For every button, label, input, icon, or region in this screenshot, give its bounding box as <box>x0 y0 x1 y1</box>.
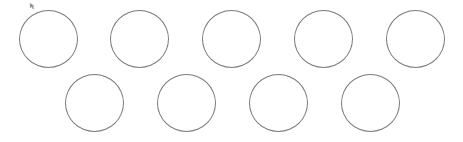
mouse-pointer-icon <box>29 2 37 10</box>
circle-row2-2[interactable] <box>157 74 216 132</box>
circle-row2-4[interactable] <box>341 74 400 132</box>
drawing-canvas[interactable] <box>0 0 463 142</box>
circle-row1-1[interactable] <box>19 10 78 68</box>
circle-row2-3[interactable] <box>249 74 308 132</box>
circle-row1-4[interactable] <box>294 10 353 68</box>
circle-row1-5[interactable] <box>386 10 445 68</box>
circle-row2-1[interactable] <box>65 74 124 132</box>
circle-row1-2[interactable] <box>110 10 169 68</box>
circle-row1-3[interactable] <box>202 10 261 68</box>
